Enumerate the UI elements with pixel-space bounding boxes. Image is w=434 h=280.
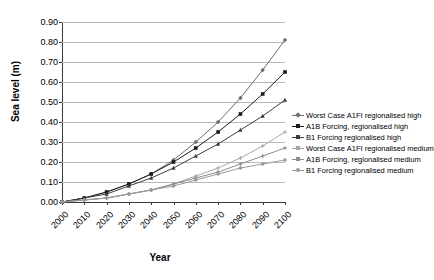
- data-point-marker: [283, 70, 287, 74]
- data-point-marker: [149, 188, 153, 192]
- legend-label: Worst Case A1FI regionalised medium: [306, 144, 434, 153]
- data-point-marker: [83, 198, 87, 202]
- series-lines: [62, 22, 285, 203]
- y-tick-label: 0.80: [22, 38, 58, 47]
- data-point-marker: [238, 128, 242, 132]
- y-tick-label: 0.30: [22, 138, 58, 147]
- x-tick-label: 2050: [156, 210, 182, 236]
- x-tick-label: 2000: [44, 210, 70, 236]
- legend-marker-icon: [292, 110, 304, 121]
- x-tick-label: 2010: [66, 210, 92, 236]
- data-point-marker: [239, 166, 243, 170]
- data-point-marker: [238, 162, 242, 166]
- legend-item[interactable]: A1B Forcing, regionalised medium: [292, 154, 432, 165]
- legend-item[interactable]: Worst Case A1FI regionalised high: [292, 110, 432, 121]
- data-point-marker: [239, 112, 243, 116]
- data-point-marker: [216, 142, 220, 146]
- data-point-marker: [194, 154, 198, 158]
- legend-label: Worst Case A1FI regionalised high: [306, 111, 421, 120]
- plot-area: [62, 22, 285, 202]
- data-point-marker: [127, 192, 131, 196]
- legend-label: A1B Forcing, regionalised high: [306, 122, 408, 131]
- y-tick-label: 0.60: [22, 78, 58, 87]
- legend-marker-icon: [292, 143, 304, 154]
- y-tick-label: 0.00: [22, 198, 58, 207]
- x-tick-label: 2020: [89, 210, 115, 236]
- y-tick-label: 0.10: [22, 178, 58, 187]
- x-axis-title: Year: [0, 252, 320, 263]
- data-point-marker: [171, 166, 175, 170]
- data-point-marker: [105, 196, 109, 200]
- legend-label: A1B Forcing, regionalised medium: [306, 155, 421, 164]
- x-tick-label: 2100: [267, 210, 293, 236]
- legend-item[interactable]: Worst Case A1FI regionalised medium: [292, 143, 432, 154]
- legend-marker-icon: [292, 132, 304, 143]
- data-point-marker: [194, 178, 198, 182]
- data-point-marker: [261, 162, 265, 166]
- legend-marker-icon: [292, 165, 304, 176]
- data-point-marker: [283, 146, 287, 150]
- data-point-marker: [216, 172, 220, 176]
- data-point-marker: [216, 166, 220, 170]
- data-point-marker: [283, 98, 287, 102]
- legend-item[interactable]: B1 Forcing regionalised high: [292, 132, 432, 143]
- x-tick-label: 2090: [245, 210, 271, 236]
- data-point-marker: [172, 184, 176, 188]
- data-point-marker: [60, 200, 64, 204]
- legend-label: B1 Forcing regionalised high: [306, 133, 401, 142]
- data-point-marker: [261, 92, 265, 96]
- legend-marker-icon: [292, 121, 304, 132]
- y-tick-label: 0.20: [22, 158, 58, 167]
- x-tick-label: 2070: [200, 210, 226, 236]
- data-point-marker: [261, 154, 265, 158]
- legend-marker-icon: [292, 154, 304, 165]
- x-tick-label: 2030: [111, 210, 137, 236]
- x-tick-label: 2060: [178, 210, 204, 236]
- data-point-marker: [194, 146, 198, 150]
- y-tick-label: 0.90: [22, 18, 58, 27]
- legend-label: B1 Forcing regionalised medium: [306, 166, 414, 175]
- series-line: [62, 40, 285, 202]
- data-point-marker: [238, 156, 242, 160]
- y-tick-label: 0.40: [22, 118, 58, 127]
- data-point-marker: [149, 172, 153, 176]
- legend-item[interactable]: A1B Forcing, regionalised high: [292, 121, 432, 132]
- legend-item[interactable]: B1 Forcing regionalised medium: [292, 165, 432, 176]
- y-axis-title: Sea level (m): [10, 37, 21, 147]
- series-line: [62, 148, 285, 202]
- legend: Worst Case A1FI regionalised highA1B For…: [292, 110, 432, 176]
- x-tick-label: 2080: [223, 210, 249, 236]
- x-tick-mark: [285, 202, 286, 205]
- data-point-marker: [216, 130, 220, 134]
- y-tick-label: 0.50: [22, 98, 58, 107]
- x-tick-label: 2040: [133, 210, 159, 236]
- y-tick-label: 0.70: [22, 58, 58, 67]
- data-point-marker: [172, 160, 176, 164]
- data-point-marker: [283, 158, 287, 162]
